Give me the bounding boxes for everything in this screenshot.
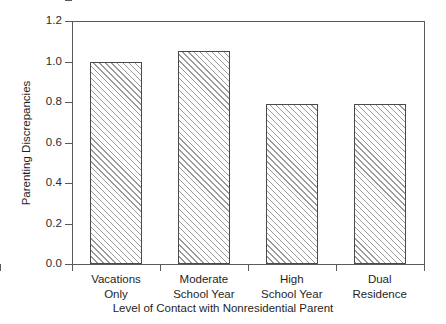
y-tick-mark [65,264,72,265]
y-axis-tick-labels: 1.2 1.0 0.8 0.6 0.4 0.2 0.0 [28,0,62,324]
x-category-label-line: Only [72,287,160,302]
bar-moderate-school-year [178,51,230,264]
x-category-label-0: Vacations Only [72,272,160,301]
x-tick-mark [424,264,425,271]
y-tick-mark [65,183,72,184]
x-category-label-line: High [248,272,336,287]
bar-vacations-only [90,62,142,265]
y-tick-mark [65,62,72,63]
x-tick-mark [248,264,249,271]
bar-chart-figure: 1.2 1.0 0.8 0.6 0.4 0.2 0.0 Vacations On… [0,0,446,324]
x-axis-title: Level of Contact with Nonresidential Par… [0,302,446,314]
y-tick-label: 0.6 [32,136,62,148]
x-category-label-line: School Year [160,287,248,302]
x-category-label-1: Moderate School Year [160,272,248,301]
bar-high-school-year [266,104,318,264]
x-tick-mark [0,264,1,271]
x-category-label-3: Dual Residence [336,272,424,301]
y-tick-mark [65,0,72,1]
x-category-label-line: School Year [248,287,336,302]
y-axis-title: Parenting Discrepancies [20,48,32,238]
x-tick-mark [72,264,73,271]
y-axis-line [72,21,73,265]
y-tick-mark [65,21,72,22]
x-category-label-line: Residence [336,287,424,302]
y-tick-mark [65,102,72,103]
x-category-label-line: Moderate [160,272,248,287]
y-tick-label: 1.2 [32,14,62,26]
x-category-label-2: High School Year [248,272,336,301]
y-tick-label: 1.0 [32,55,62,67]
y-tick-label: 0.4 [32,176,62,188]
x-tick-mark [336,264,337,271]
x-category-label-line: Dual [336,272,424,287]
y-tick-mark [65,224,72,225]
bar-dual-residence [354,104,406,264]
x-category-label-line: Vacations [72,272,160,287]
y-tick-mark [65,143,72,144]
y-tick-label: 0.8 [32,95,62,107]
y-tick-label: 0.2 [32,217,62,229]
y-tick-label: 0.0 [32,257,62,269]
x-tick-mark [160,264,161,271]
plot-frame-right [424,21,425,265]
plot-frame-top [72,21,425,22]
